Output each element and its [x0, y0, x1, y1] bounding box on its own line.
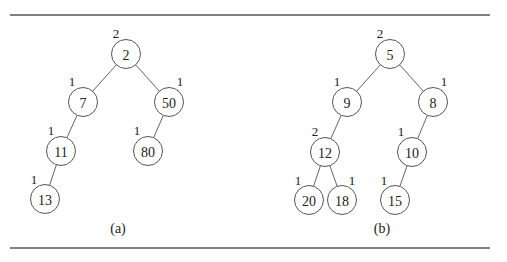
- node-key: 50: [162, 96, 176, 111]
- node-key: 12: [318, 146, 332, 161]
- tree-edge: [418, 115, 428, 138]
- node-rank-label: 1: [48, 123, 55, 138]
- tree-edge: [154, 115, 164, 137]
- node-rank-label: 2: [377, 26, 384, 41]
- node-key: 15: [388, 194, 402, 209]
- tree-node: 18: [328, 186, 357, 215]
- edges-layer: [50, 65, 428, 187]
- tree-node: 9: [333, 88, 362, 117]
- node-key: 9: [344, 96, 351, 111]
- tree-node: 15: [381, 186, 410, 215]
- node-rank-label: 1: [398, 124, 405, 139]
- node-rank-label: 1: [334, 74, 341, 89]
- nodes-layer: 2271501111801131529181122101201181151: [31, 26, 448, 215]
- node-rank-label: 1: [31, 172, 38, 187]
- node-rank-label: 1: [349, 173, 356, 188]
- node-rank-label: 1: [69, 74, 76, 89]
- tree-edge: [314, 166, 321, 186]
- tree-node: 7: [69, 88, 98, 117]
- subfigure-caption: (b): [374, 221, 391, 237]
- node-rank-label: 1: [177, 74, 184, 89]
- node-key: 11: [54, 145, 67, 160]
- tree-edge: [136, 65, 160, 91]
- captions-layer: (a)(b): [110, 221, 390, 237]
- leftist-heap-figure: 2271501111801131529181122101201181151 (a…: [0, 0, 507, 262]
- node-key: 7: [80, 96, 87, 111]
- tree-node: 10: [398, 138, 427, 167]
- tree-node: 2: [112, 40, 141, 69]
- node-key: 2: [123, 48, 130, 63]
- tree-edge: [330, 166, 337, 187]
- tree-node: 11: [47, 137, 76, 166]
- node-key: 10: [405, 146, 419, 161]
- node-key: 8: [430, 96, 437, 111]
- tree-edge: [93, 65, 117, 91]
- tree-node: 50: [155, 88, 184, 117]
- node-key: 13: [38, 193, 52, 208]
- tree-edge: [50, 165, 57, 185]
- tree-edge: [357, 65, 381, 91]
- node-key: 5: [387, 48, 394, 63]
- tree-node: 80: [134, 137, 163, 166]
- node-rank-label: 1: [134, 123, 141, 138]
- tree-node: 5: [376, 40, 405, 69]
- node-key: 18: [335, 194, 349, 209]
- tree-edge: [400, 65, 424, 91]
- tree-edge: [400, 166, 407, 187]
- node-rank-label: 2: [312, 124, 319, 139]
- tree-edge: [67, 115, 77, 138]
- tree-node: 13: [31, 185, 60, 214]
- tree-node: 20: [295, 186, 324, 215]
- tree-edge: [331, 115, 341, 138]
- tree-node: 12: [311, 138, 340, 167]
- node-rank-label: 1: [295, 173, 302, 188]
- node-key: 80: [141, 145, 155, 160]
- subfigure-caption: (a): [110, 221, 126, 237]
- node-rank-label: 2: [113, 26, 120, 41]
- tree-node: 8: [419, 88, 448, 117]
- node-key: 20: [302, 194, 316, 209]
- node-rank-label: 1: [441, 74, 448, 89]
- node-rank-label: 1: [381, 173, 388, 188]
